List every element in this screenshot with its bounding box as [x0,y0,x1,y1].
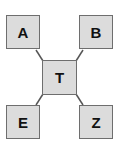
node-a: A [6,15,40,49]
node-t-center: T [42,60,77,95]
edge-t-z [76,94,83,105]
node-e: E [6,105,40,139]
edge-t-b [76,50,83,61]
node-z: Z [79,105,113,139]
node-b: B [79,15,113,49]
edge-t-e [36,94,43,105]
